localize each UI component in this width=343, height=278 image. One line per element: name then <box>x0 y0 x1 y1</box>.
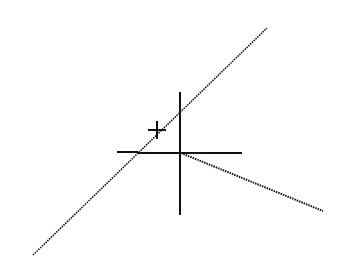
drawing-surface[interactable] <box>0 0 343 278</box>
diagonal-line[interactable] <box>33 28 267 255</box>
drawing-canvas[interactable] <box>0 0 343 278</box>
tracking-line[interactable] <box>181 153 323 211</box>
